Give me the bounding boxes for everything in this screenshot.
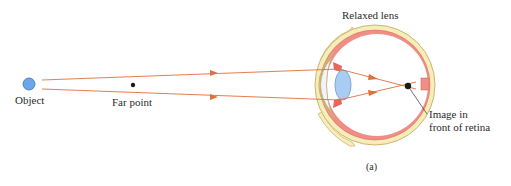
optic-disc bbox=[421, 78, 429, 90]
image-label-line2: front of retina bbox=[429, 121, 490, 133]
eyeball bbox=[315, 25, 435, 146]
object-label: Object bbox=[15, 94, 44, 106]
image-label-line1: Image in bbox=[429, 108, 468, 120]
relaxed-lens-label: Relaxed lens bbox=[342, 9, 399, 21]
myopia-eye-diagram: Object Far point Relaxed lens Image in f… bbox=[0, 0, 511, 186]
ray-lower-outer bbox=[42, 89, 339, 100]
image-point-dot bbox=[405, 83, 411, 89]
ray-upper-outer bbox=[42, 69, 339, 80]
far-point-dot bbox=[131, 83, 135, 87]
diagram-canvas bbox=[0, 0, 511, 186]
relaxed-lens bbox=[335, 70, 351, 100]
object-circle bbox=[23, 78, 35, 90]
far-point-label: Far point bbox=[112, 96, 152, 108]
panel-label: (a) bbox=[366, 161, 377, 173]
arrow-upper-outer-icon bbox=[210, 70, 218, 76]
arrow-lower-outer-icon bbox=[210, 94, 218, 100]
